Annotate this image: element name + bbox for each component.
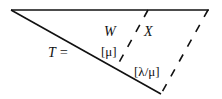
hypotenuse-edge: [11, 10, 161, 94]
triangle-diagram: T = W X [μ] [λ/μ]: [0, 0, 222, 99]
label-mu: [μ]: [101, 44, 117, 59]
dashed-divider-outer: [161, 10, 208, 94]
dashed-divider-inner: [116, 10, 148, 68]
label-lambda-mu: [λ/μ]: [134, 64, 160, 79]
label-w: W: [104, 24, 117, 39]
label-x: X: [143, 24, 153, 39]
label-t: T =: [48, 45, 68, 60]
